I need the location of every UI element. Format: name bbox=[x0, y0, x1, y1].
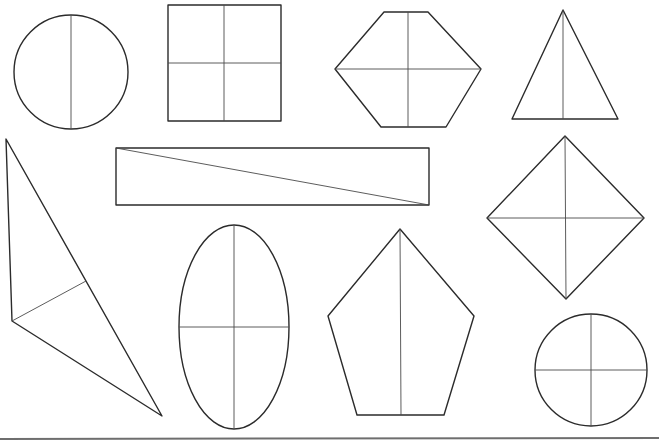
pentagon bbox=[328, 229, 474, 415]
diamond bbox=[487, 136, 644, 299]
long-rectangle bbox=[116, 148, 429, 205]
circle-bottom-right bbox=[535, 314, 647, 426]
triangle-isosceles-outline bbox=[512, 10, 618, 119]
page-bottom-rule bbox=[0, 438, 659, 439]
long-rectangle-diagonal-divider bbox=[116, 148, 429, 205]
diamond-vertical-divider bbox=[565, 136, 566, 299]
triangle-scalene-median-divider bbox=[12, 281, 86, 321]
shapes-worksheet bbox=[0, 0, 659, 446]
circle-top-left bbox=[14, 15, 128, 129]
triangle-isosceles bbox=[512, 10, 618, 119]
triangle-scalene bbox=[6, 139, 162, 416]
triangle-scalene-outline bbox=[6, 139, 162, 416]
pentagon-vertical-divider bbox=[400, 229, 401, 415]
square bbox=[168, 5, 281, 121]
ellipse bbox=[179, 225, 289, 429]
hexagon bbox=[335, 12, 481, 127]
